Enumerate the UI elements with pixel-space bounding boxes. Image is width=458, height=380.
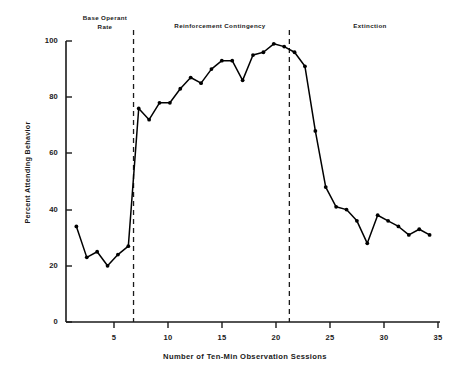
line-chart-plot — [0, 0, 458, 380]
y-axis-ticks — [66, 41, 72, 322]
data-point — [324, 185, 328, 189]
data-point — [293, 50, 297, 54]
data-point — [199, 81, 203, 85]
data-point — [210, 67, 214, 71]
data-point — [386, 219, 390, 223]
phase-label-extinction: Extinction — [330, 22, 410, 31]
x-tick-label-30: 30 — [374, 333, 394, 342]
data-point — [178, 87, 182, 91]
data-point — [220, 59, 224, 63]
data-point — [189, 76, 193, 80]
data-point — [365, 241, 369, 245]
y-tick-label-0: 0 — [36, 317, 58, 326]
data-point — [106, 264, 110, 268]
data-point — [126, 244, 130, 248]
chart-figure: 100 80 60 40 20 0 5 10 15 20 25 30 35 Ba… — [0, 0, 458, 380]
data-point — [158, 101, 162, 105]
y-tick-label-100: 100 — [36, 36, 58, 45]
phase-label-base-operant-rate: Base Operant Rate — [62, 14, 148, 31]
data-point — [116, 253, 120, 257]
x-axis-title: Number of Ten-Min Observation Sessions — [55, 352, 435, 361]
data-point — [261, 50, 265, 54]
x-tick-label-15: 15 — [212, 333, 232, 342]
data-point — [428, 233, 432, 237]
data-point — [345, 208, 349, 212]
data-point — [376, 213, 380, 217]
y-tick-label-60: 60 — [36, 148, 58, 157]
y-tick-label-20: 20 — [36, 261, 58, 270]
data-series-line — [76, 44, 429, 266]
data-point — [407, 233, 411, 237]
data-point — [397, 225, 401, 229]
data-point — [251, 53, 255, 57]
data-point-markers — [74, 42, 431, 268]
data-point — [334, 205, 338, 209]
data-point — [313, 129, 317, 133]
data-point — [303, 64, 307, 68]
x-axis-ticks — [114, 322, 438, 328]
data-point — [272, 42, 276, 46]
data-point — [230, 59, 234, 63]
y-axis-title: Percent Attending Behavior — [23, 108, 32, 238]
data-point — [85, 255, 89, 259]
x-tick-label-20: 20 — [266, 333, 286, 342]
data-point — [95, 250, 99, 254]
data-point — [282, 45, 286, 49]
data-point — [74, 225, 78, 229]
data-point — [355, 219, 359, 223]
data-point — [168, 101, 172, 105]
y-tick-label-80: 80 — [36, 92, 58, 101]
data-point — [137, 107, 141, 111]
data-point — [241, 78, 245, 82]
x-tick-label-35: 35 — [428, 333, 448, 342]
x-tick-label-25: 25 — [320, 333, 340, 342]
data-point — [417, 227, 421, 231]
x-tick-label-10: 10 — [158, 333, 178, 342]
phase-divider-lines — [134, 30, 290, 322]
phase-label-reinforcement-contingency: Reinforcement Contingency — [140, 22, 300, 31]
y-tick-label-40: 40 — [36, 205, 58, 214]
data-point — [147, 118, 151, 122]
x-tick-label-5: 5 — [104, 333, 124, 342]
